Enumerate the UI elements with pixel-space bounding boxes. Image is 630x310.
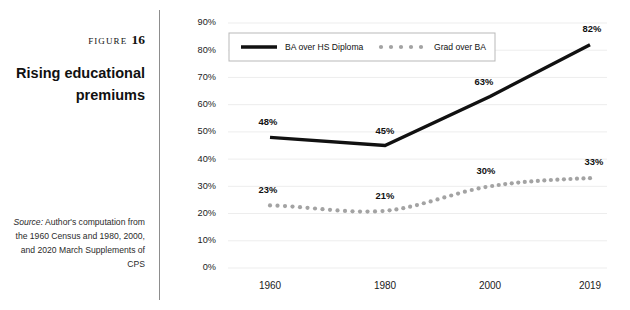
- grad-over-ba-dot: [422, 201, 426, 205]
- legend-label-ba-over-hs-diploma: BA over HS Diploma: [285, 42, 364, 52]
- y-tick-label: 40%: [198, 154, 216, 164]
- grad-over-ba-dot: [575, 177, 579, 181]
- data-label-ba-1980: 45%: [376, 125, 395, 136]
- line-chart: 0%10%20%30%40%50%60%70%80%90% 1960198020…: [159, 0, 630, 310]
- data-label-grad-1980: 21%: [376, 190, 395, 201]
- y-tick-label: 90%: [198, 17, 216, 27]
- grad-over-ba-dot: [456, 191, 460, 195]
- y-tick-label: 30%: [198, 181, 216, 191]
- grad-over-ba-dot: [523, 180, 527, 184]
- grad-over-ba-dot: [581, 176, 585, 180]
- source-label: Source:: [13, 217, 43, 227]
- x-tick-label-2000: 2000: [479, 280, 502, 291]
- grad-over-ba-dot: [365, 209, 369, 213]
- grad-over-ba-dot: [476, 186, 480, 190]
- grad-over-ba-dot: [415, 203, 419, 207]
- y-tick-label: 60%: [198, 99, 216, 109]
- grad-over-ba-dot: [542, 178, 546, 182]
- grad-over-ba-dot: [283, 204, 287, 208]
- grad-over-ba-dot: [497, 183, 501, 187]
- legend-swatch-grad-over-ba-dot: [419, 45, 423, 49]
- x-tick-label-1960: 1960: [259, 280, 282, 291]
- data-label-grad-2000: 30%: [477, 165, 496, 176]
- figure-root: Figure 16 Rising educational premiums So…: [0, 0, 630, 310]
- data-label-ba-2000: 63%: [475, 76, 494, 87]
- figure-number-word: Figure: [88, 33, 127, 47]
- y-axis-tick-labels: 0%10%20%30%40%50%60%70%80%90%: [198, 17, 216, 272]
- y-tick-label: 70%: [198, 72, 216, 82]
- grad-over-ba-dot: [298, 205, 302, 209]
- figure-number-value: 16: [132, 32, 146, 47]
- grad-over-ba-dot: [549, 178, 553, 182]
- legend-swatch-grad-over-ba-dot: [379, 45, 383, 49]
- y-tick-label: 80%: [198, 45, 216, 55]
- legend-swatch-grad-over-ba-dot: [409, 45, 413, 49]
- chart-legend: BA over HS DiplomaGrad over BA: [229, 33, 495, 61]
- legend-swatch-grad-over-ba-dot: [389, 45, 393, 49]
- caption-column: Figure 16 Rising educational premiums So…: [0, 0, 159, 310]
- data-label-grad-1960: 23%: [259, 184, 278, 195]
- grad-over-ba-dot: [449, 193, 453, 197]
- grad-over-ba-dot: [320, 207, 324, 211]
- grad-over-ba-dot: [503, 182, 507, 186]
- grad-over-ba-dot: [483, 185, 487, 189]
- grad-over-ba-dot: [343, 209, 347, 213]
- grad-over-ba-dot: [442, 195, 446, 199]
- y-tick-label: 20%: [198, 208, 216, 218]
- page-title: Rising educational premiums: [15, 62, 145, 107]
- grad-over-ba-dot: [562, 177, 566, 181]
- grad-over-ba-dot: [268, 203, 272, 207]
- grad-over-ba-dot: [401, 206, 405, 210]
- grad-over-ba-dot: [555, 178, 559, 182]
- grad-over-ba-dot: [429, 199, 433, 203]
- legend-swatch-grad-over-ba-dot: [399, 45, 403, 49]
- legend-label-grad-over-ba: Grad over BA: [434, 42, 486, 52]
- grad-over-ba-dot: [394, 207, 398, 211]
- grad-over-ba-dot: [536, 179, 540, 183]
- grad-over-ba-dot: [516, 181, 520, 185]
- y-tick-label: 50%: [198, 126, 216, 136]
- grad-over-ba-dot: [435, 197, 439, 201]
- y-tick-label: 0%: [203, 262, 216, 272]
- grad-over-ba-dot: [358, 209, 362, 213]
- grad-over-ba-dot: [387, 208, 391, 212]
- grad-over-ba-dot: [463, 190, 467, 194]
- grad-over-ba-dot: [335, 208, 339, 212]
- grad-over-ba-dot: [568, 177, 572, 181]
- y-tick-label: 10%: [198, 235, 216, 245]
- chart-panel: 0%10%20%30%40%50%60%70%80%90% 1960198020…: [159, 0, 630, 310]
- grad-over-ba-dot: [408, 205, 412, 209]
- grad-over-ba-dot: [470, 188, 474, 192]
- grad-over-ba-dot: [373, 209, 377, 213]
- data-label-grad-2019: 33%: [585, 156, 604, 167]
- grad-over-ba-dot: [588, 176, 592, 180]
- grad-over-ba-dot: [305, 206, 309, 210]
- data-label-ba-1960: 48%: [259, 116, 278, 127]
- grad-over-ba-dot: [510, 181, 514, 185]
- grad-over-ba-dot: [328, 208, 332, 212]
- grad-over-ba-dot: [275, 204, 279, 208]
- grad-over-ba-dot: [313, 206, 317, 210]
- data-label-ba-2019: 82%: [583, 23, 602, 34]
- grad-over-ba-dot: [490, 184, 494, 188]
- series-grad-over-ba: [268, 176, 592, 214]
- grad-over-ba-dot: [350, 209, 354, 213]
- x-tick-label-2019: 2019: [579, 280, 602, 291]
- x-axis-tick-labels: 1960198020002019: [259, 280, 602, 291]
- figure-source-note: Source: Author's computation from the 19…: [13, 216, 145, 272]
- x-tick-label-1980: 1980: [374, 280, 397, 291]
- figure-number: Figure 16: [88, 32, 145, 48]
- grad-over-ba-dot: [290, 204, 294, 208]
- grad-over-ba-dot: [529, 179, 533, 183]
- grad-over-ba-dot: [380, 209, 384, 213]
